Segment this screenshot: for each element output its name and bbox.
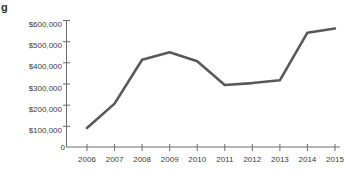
y-tick-label-0: $100,000	[3, 126, 62, 135]
x-tick-label-2015: 2015	[320, 155, 349, 164]
y-tick-text: $200,000	[8, 105, 62, 114]
y-tick-label-zero: 0	[3, 143, 65, 152]
y-tick-label-5: $600,000	[3, 20, 62, 29]
x-tick-label-2008: 2008	[127, 155, 157, 164]
x-tick-label-2010: 2010	[182, 155, 212, 164]
x-tick-label-2011: 2011	[210, 155, 240, 164]
y-tick-text: $500,000	[8, 41, 62, 50]
data-series-line	[87, 28, 335, 127]
y-tick-text: $300,000	[8, 84, 62, 93]
x-tick-label-2007: 2007	[100, 155, 130, 164]
y-tick-text: $600,000	[8, 20, 62, 29]
y-tick-label-2: $300,000	[3, 84, 62, 93]
y-tick-text: $100,000	[8, 126, 62, 135]
y-tick-text: $400,000	[8, 62, 62, 71]
x-tick-label-2012: 2012	[237, 155, 267, 164]
x-tick-label-2014: 2014	[292, 155, 322, 164]
y-tick-label-1: $200,000	[3, 105, 62, 114]
y-tick-label-3: $400,000	[3, 62, 62, 71]
x-tick-label-2009: 2009	[155, 155, 185, 164]
y-tick-text: 0	[11, 143, 65, 152]
x-tick-label-2013: 2013	[265, 155, 295, 164]
x-tick-label-2006: 2006	[72, 155, 102, 164]
y-tick-label-4: $500,000	[3, 41, 62, 50]
